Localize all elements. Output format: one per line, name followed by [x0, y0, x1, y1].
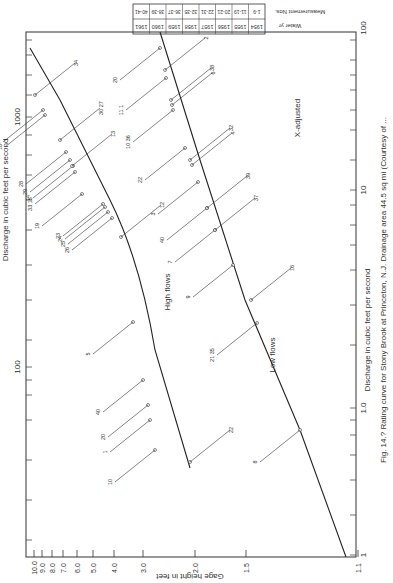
- figure-caption: Fig. 14.? Rating curve for Stony Brook a…: [379, 117, 388, 463]
- table-cell-water-yr: 1954: [251, 24, 263, 30]
- gage-tick-label: 3.0: [140, 563, 147, 573]
- table-label-water-yr: Water yr: [279, 23, 301, 29]
- table-cell-measurement: 32-35: [184, 9, 197, 15]
- high-flows-curve: [30, 48, 190, 468]
- measurement-label: 22: [137, 177, 143, 183]
- measurement-label: 10: [107, 479, 113, 485]
- gage-axis-title: Gage height in feet: [155, 572, 223, 581]
- measurement-label: 1: [102, 450, 108, 453]
- measurement-label: 34: [73, 60, 79, 66]
- gage-tick-label: 2.0: [192, 563, 199, 573]
- tick-low-1.0: 1.0: [359, 402, 368, 414]
- gage-tick-label: 1.1: [355, 563, 362, 573]
- tick-1000: 1000: [13, 108, 22, 126]
- measurement-label: 17: [0, 139, 1, 145]
- table-cell-water-yr: 1958: [185, 24, 197, 30]
- table-cell-water-yr: 1956: [218, 24, 230, 30]
- table-cell-measurement: 38-39: [151, 9, 164, 15]
- gage-tick-label: 8.0: [49, 563, 56, 573]
- gage-height-axis: 1.11.52.03.04.05.06.07.08.09.010.0: [31, 550, 362, 575]
- rating-curve-figure: 1-9195411-19195520-21195622-31195732-351…: [0, 0, 393, 583]
- table-cell-water-yr: 1957: [201, 24, 213, 30]
- gage-tick-label: 10.0: [31, 561, 38, 575]
- measurement-label: 38: [209, 65, 215, 71]
- measurement-label: 5: [85, 352, 91, 355]
- high-flows-label: High flows: [163, 274, 172, 311]
- table-cell-measurement: 36-37: [168, 9, 181, 15]
- measurement-label: 32: [228, 125, 234, 131]
- measurement-label: 2: [203, 36, 209, 39]
- gage-tick-label: 6.0: [74, 563, 81, 573]
- discharge-axis-low: Discharge in cubic feet per second 100 1…: [350, 21, 372, 557]
- measurement-label: 8: [252, 460, 258, 463]
- table-cell-measurement: 40-41: [135, 9, 148, 15]
- gage-tick-label: 5.0: [90, 563, 97, 573]
- measurement-label: 40: [159, 237, 165, 243]
- gage-tick-label: 9.0: [39, 563, 46, 573]
- measurement-label: 19: [34, 223, 40, 229]
- discharge-axis-low-title: Discharge in cubic feet per second: [363, 269, 372, 392]
- table-cell-water-yr: 1959: [168, 24, 180, 30]
- plot-frame: [26, 32, 356, 557]
- measurement-label: 30 27: [98, 101, 104, 115]
- measurement-label: 37: [253, 195, 259, 201]
- measurement-label: 16: [289, 265, 295, 271]
- discharge-axis-high: Discharge in cubic feet per second 1000 …: [1, 40, 32, 540]
- measurement-label: 39: [245, 173, 251, 179]
- measurement-label: 22: [228, 427, 234, 433]
- measurement-label: 7: [167, 260, 173, 263]
- measurement-label: 21 35: [209, 348, 215, 362]
- measurement-label: 20: [112, 77, 118, 83]
- x-adjusted-label: X-adjusted: [293, 99, 302, 137]
- measurement-label: 13: [110, 131, 116, 137]
- measurement-label: 23: [55, 233, 61, 239]
- measurement-label: 20: [100, 434, 106, 440]
- table-cell-measurement: 1-9: [253, 9, 260, 15]
- discharge-axis-high-title: Discharge in cubic feet per second: [1, 139, 10, 262]
- tick-low-1: 1: [359, 552, 368, 557]
- low-flows-curve: [160, 32, 346, 557]
- table-cell-measurement: 11-19: [234, 9, 247, 15]
- measurement-label: 12: [159, 202, 165, 208]
- measurement-label: 28: [18, 181, 24, 187]
- measurement-label: 9: [185, 295, 191, 298]
- table-label-measurement: Measurement Nos.: [274, 9, 325, 15]
- gage-tick-label: 4.0: [111, 563, 118, 573]
- gage-tick-label: 7.0: [60, 563, 67, 573]
- table-cell-measurement: 20-21: [217, 9, 230, 15]
- tick-low-100: 100: [359, 21, 368, 35]
- table-cell-water-yr: 1955: [234, 24, 246, 30]
- table-cell-measurement: 22-31: [201, 9, 214, 15]
- tick-100: 100: [13, 360, 22, 374]
- measurement-label: 3: [150, 212, 156, 215]
- table-cell-water-yr: 1960: [152, 24, 164, 30]
- low-flows-label: Low flows: [268, 337, 277, 372]
- measurement-points: 221012040512262524231933 151429281330 27…: [0, 36, 302, 485]
- gage-tick-label: 1.5: [243, 563, 250, 573]
- measurement-label: 11 1: [118, 105, 124, 115]
- measurement-label: 10 36: [125, 135, 131, 149]
- measurement-label: 40: [95, 409, 101, 415]
- measurement-label: 29: [22, 189, 28, 195]
- tick-low-10: 10: [359, 185, 368, 194]
- table-cell-water-yr: 1961: [135, 24, 147, 30]
- measurement-table: 1-9195411-19195520-21195622-31195732-351…: [133, 4, 325, 34]
